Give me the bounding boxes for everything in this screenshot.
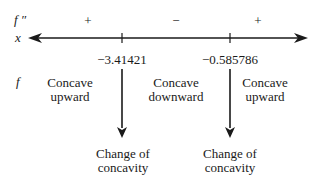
critical-point-2-label: −0.585786 (202, 53, 258, 67)
x-variable-label: x (15, 31, 21, 45)
interval-2-line2: downward (149, 90, 204, 104)
second-derivative-label: f ″ (14, 13, 26, 27)
annotation-2-line2: concavity (203, 161, 257, 175)
sign-interval-3: + (254, 14, 261, 28)
interval-3-line2: upward (242, 90, 287, 104)
annotation-2: Change of concavity (203, 147, 257, 175)
interval-1-line2: upward (47, 90, 92, 104)
annotation-1-line1: Change of (96, 147, 150, 161)
down-arrow-1-head-icon (117, 127, 127, 138)
interval-3-concavity: Concave upward (242, 76, 287, 104)
annotation-2-line1: Change of (203, 147, 257, 161)
down-arrow-2-head-icon (225, 127, 235, 138)
annotation-1-line2: concavity (96, 161, 150, 175)
sign-interval-2: − (172, 14, 179, 28)
interval-2-concavity: Concave downward (149, 76, 204, 104)
interval-1-concavity: Concave upward (47, 76, 92, 104)
interval-2-line1: Concave (149, 76, 204, 90)
interval-1-line1: Concave (47, 76, 92, 90)
sign-interval-1: + (84, 14, 91, 28)
interval-3-line1: Concave (242, 76, 287, 90)
function-label: f (16, 75, 20, 89)
critical-point-1-label: −3.41421 (97, 53, 147, 67)
annotation-1: Change of concavity (96, 147, 150, 175)
